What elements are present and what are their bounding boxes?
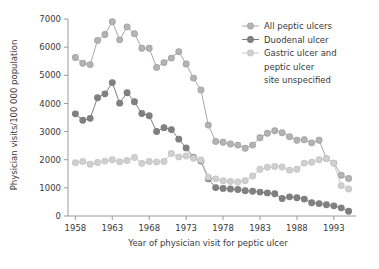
- x-axis-ticks: 19581963196819731978198319881993: [65, 216, 345, 233]
- data-point: [346, 186, 352, 192]
- data-point: [264, 164, 270, 170]
- data-point: [72, 160, 78, 166]
- y-axis-title: Physician visits/100 000 population: [9, 40, 19, 191]
- chart-figure: 01000200030004000500060007000 1958196319…: [0, 0, 379, 269]
- legend-item-label: Gastric ulcer and: [264, 48, 337, 58]
- data-point: [242, 145, 248, 151]
- data-point: [257, 189, 263, 195]
- data-point: [250, 173, 256, 179]
- data-point: [324, 202, 330, 208]
- data-point: [316, 201, 322, 207]
- data-point: [309, 159, 315, 165]
- data-point: [272, 164, 278, 170]
- data-point: [220, 186, 226, 192]
- peptic-ulcer-line-chart: 01000200030004000500060007000 1958196319…: [0, 0, 379, 269]
- y-tick-label: 6000: [39, 42, 61, 52]
- y-tick-label: 2000: [39, 155, 61, 165]
- data-point: [220, 139, 226, 145]
- data-point: [72, 111, 78, 117]
- data-point: [257, 135, 263, 141]
- legend-item-label: site unspecified: [264, 75, 331, 85]
- data-point: [228, 141, 234, 147]
- data-point: [161, 125, 167, 131]
- data-point: [80, 117, 86, 123]
- data-point: [338, 183, 344, 189]
- data-point: [324, 156, 330, 162]
- data-point: [198, 157, 204, 163]
- data-point: [287, 194, 293, 200]
- data-point: [109, 157, 115, 163]
- legend-marker-point: [248, 23, 254, 29]
- data-point: [95, 37, 101, 43]
- data-point: [250, 142, 256, 148]
- chart-legend: All peptic ulcersDuodenal ulcerGastric u…: [242, 21, 337, 85]
- x-tick-label: 1983: [249, 223, 271, 233]
- data-point: [294, 137, 300, 143]
- x-tick-label: 1973: [175, 223, 197, 233]
- data-point: [272, 128, 278, 134]
- data-point: [146, 159, 152, 165]
- data-point: [272, 191, 278, 197]
- data-point: [168, 151, 174, 157]
- series-line: [75, 22, 348, 179]
- data-point: [191, 75, 197, 81]
- data-point: [309, 200, 315, 206]
- series-line: [75, 83, 348, 212]
- data-point: [139, 45, 145, 51]
- data-point: [250, 188, 256, 194]
- data-point: [183, 145, 189, 151]
- data-point: [294, 195, 300, 201]
- data-point: [242, 188, 248, 194]
- data-point: [346, 208, 352, 214]
- data-point: [242, 178, 248, 184]
- data-point: [198, 87, 204, 93]
- data-point: [309, 140, 315, 146]
- data-point: [176, 49, 182, 55]
- data-point: [257, 166, 263, 172]
- x-tick-label: 1963: [101, 223, 123, 233]
- x-tick-label: 1968: [138, 223, 160, 233]
- data-point: [264, 190, 270, 196]
- data-point: [117, 100, 123, 106]
- legend-marker-point: [248, 50, 254, 56]
- data-point: [331, 160, 337, 166]
- data-point: [338, 205, 344, 211]
- data-point: [279, 196, 285, 202]
- y-tick-label: 3000: [39, 127, 61, 137]
- legend-item-label: Duodenal ulcer: [264, 35, 329, 45]
- data-point: [183, 61, 189, 67]
- y-tick-label: 7000: [39, 14, 61, 24]
- data-point: [139, 160, 145, 166]
- legend-item-label: All peptic ulcers: [264, 21, 332, 31]
- data-point: [301, 160, 307, 166]
- data-point: [235, 187, 241, 193]
- data-point: [287, 134, 293, 140]
- data-point: [338, 172, 344, 178]
- data-point: [191, 155, 197, 161]
- legend-marker-point: [248, 37, 254, 43]
- data-point: [279, 130, 285, 136]
- data-point: [168, 127, 174, 133]
- x-tick-label: 1993: [323, 223, 345, 233]
- data-point: [176, 136, 182, 142]
- x-tick-label: 1958: [65, 223, 87, 233]
- data-point: [139, 111, 145, 117]
- data-point: [161, 159, 167, 165]
- data-point: [301, 196, 307, 202]
- data-point: [132, 155, 138, 161]
- y-tick-label: 4000: [39, 99, 61, 109]
- data-point: [102, 91, 108, 97]
- data-point: [183, 153, 189, 159]
- data-point: [95, 160, 101, 166]
- data-point: [287, 167, 293, 173]
- series-3: [72, 151, 351, 192]
- data-point: [95, 95, 101, 101]
- data-point: [87, 115, 93, 121]
- data-point: [80, 60, 86, 66]
- x-tick-label: 1988: [286, 223, 308, 233]
- data-point: [316, 157, 322, 163]
- data-point: [301, 137, 307, 143]
- data-point: [124, 24, 130, 30]
- data-point: [109, 19, 115, 25]
- data-point: [316, 137, 322, 143]
